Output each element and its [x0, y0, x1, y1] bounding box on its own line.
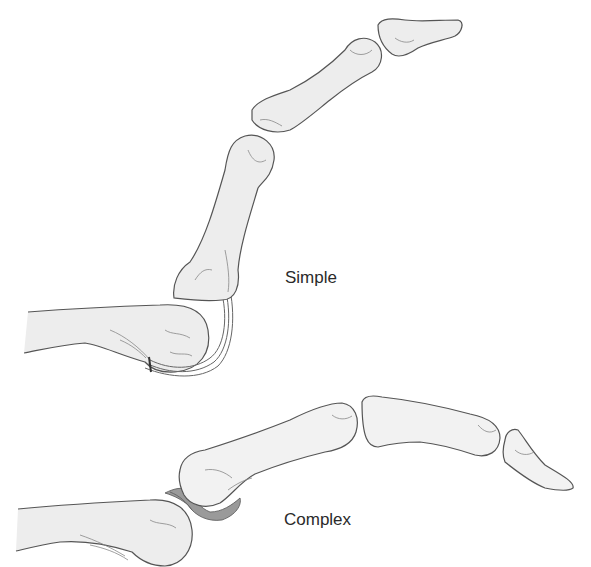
- simple-metacarpal: [24, 305, 209, 372]
- simple-finger: [24, 19, 462, 376]
- complex-label: Complex: [284, 510, 351, 530]
- complex-finger: [16, 396, 573, 566]
- simple-distal-phalanx: [378, 19, 462, 56]
- complex-metacarpal: [16, 500, 192, 566]
- complex-distal-phalanx: [503, 429, 573, 490]
- clipped-caption: [0, 0, 591, 5]
- simple-proximal-phalanx: [174, 135, 275, 301]
- simple-middle-phalanx: [252, 38, 381, 132]
- complex-proximal-phalanx: [179, 403, 357, 506]
- dislocation-illustration: Simple Complex: [0, 0, 591, 567]
- simple-label: Simple: [285, 268, 337, 288]
